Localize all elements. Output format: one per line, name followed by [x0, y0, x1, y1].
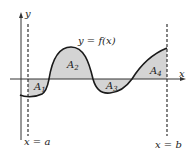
y-axis-label: y — [24, 8, 31, 19]
area-diagram: y = f(x) y x A1 A2 A3 A4 x = a x = b — [0, 0, 193, 155]
bound-label-a: x = a — [24, 136, 50, 147]
x-axis-label: x — [179, 68, 185, 79]
bound-label-b: x = b — [155, 139, 182, 150]
y-axis-arrow-icon — [19, 12, 23, 18]
curve-label: y = f(x) — [77, 35, 116, 46]
